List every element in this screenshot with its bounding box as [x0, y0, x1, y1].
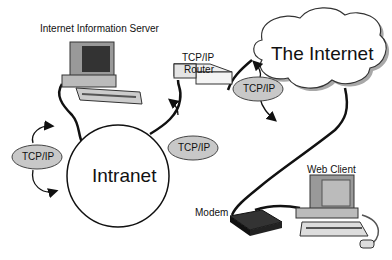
internet-label: The Internet [271, 43, 373, 65]
server-computer-icon [62, 42, 142, 104]
tcpip-label-center: TCP/IP [178, 142, 210, 153]
arrow-up-left [32, 126, 52, 143]
tcpip-label-right: TCP/IP [243, 83, 275, 94]
tcpip-label-left: TCP/IP [22, 151, 54, 162]
intranet-label: Intranet [92, 165, 156, 187]
client-label: Web Client [307, 164, 356, 175]
modem-label: Modem [195, 207, 228, 218]
diagram-canvas [0, 0, 392, 260]
modem-icon [230, 210, 282, 236]
mouse-icon [360, 240, 374, 248]
arrow-down-left [33, 170, 56, 192]
modem-client-cable [255, 206, 300, 210]
router-label-line2: Router [184, 64, 214, 75]
network-diagram: Internet Information Server TCP/IP Route… [0, 0, 392, 260]
client-computer-icon [296, 175, 378, 248]
server-label: Internet Information Server [40, 23, 159, 34]
router-label-line1: TCP/IP [182, 52, 214, 63]
arrow-internet-up [254, 62, 261, 78]
